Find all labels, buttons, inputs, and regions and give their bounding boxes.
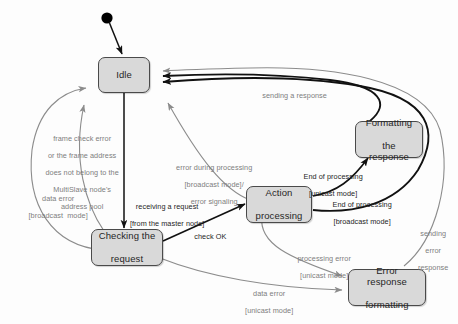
state-formatting-line2: the response	[359, 140, 419, 163]
label-error-during-processing: error during processing [broadcast mode]…	[167, 155, 253, 215]
label-check-ok: check OK	[186, 224, 226, 250]
label-sending-error-response: sending error response	[407, 221, 451, 281]
state-formatting-the-response[interactable]: Formatting the response	[355, 121, 423, 158]
state-diagram-canvas: Idle Formatting the response Action proc…	[0, 0, 458, 324]
edge-start-to-idle	[110, 23, 123, 54]
start-node	[101, 12, 112, 23]
state-errorfmt-line2: formatting	[352, 299, 422, 311]
label-data-error-broadcast: data error [broadcast mode]	[16, 186, 92, 229]
state-idle[interactable]: Idle	[98, 57, 150, 93]
state-idle-label: Idle	[113, 69, 135, 81]
state-action-line2: processing	[253, 210, 306, 222]
label-end-of-processing-broadcast: End of processing [broadcast mode]	[314, 192, 402, 235]
label-sending-a-response: sending a response	[254, 83, 327, 109]
label-data-error-unicast: data error [unicast mode]	[227, 281, 303, 324]
state-formatting-line1: Formatting	[359, 117, 419, 129]
state-checking-line2: request	[96, 253, 159, 265]
